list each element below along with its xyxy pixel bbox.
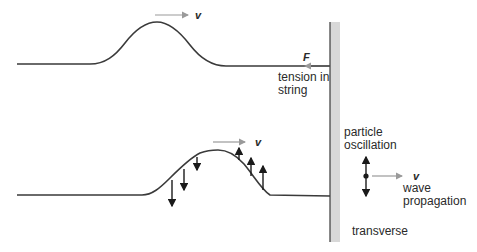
top-string-pulse bbox=[17, 22, 330, 66]
top-velocity-label: v bbox=[195, 9, 201, 22]
wave-label-line2: propagation bbox=[403, 195, 466, 208]
transverse-label: transverse bbox=[352, 225, 408, 238]
particle-label-line2: oscillation bbox=[344, 139, 397, 152]
diagram-canvas bbox=[0, 0, 477, 252]
force-label: F bbox=[303, 51, 310, 64]
wall bbox=[330, 22, 340, 242]
particle-dot bbox=[363, 173, 368, 178]
tension-label-line2: string bbox=[278, 84, 307, 97]
wave-diagram: v F tension in string v particle oscilla… bbox=[0, 0, 477, 252]
bottom-string-pulse bbox=[17, 150, 330, 196]
bottom-velocity-label: v bbox=[255, 136, 261, 149]
